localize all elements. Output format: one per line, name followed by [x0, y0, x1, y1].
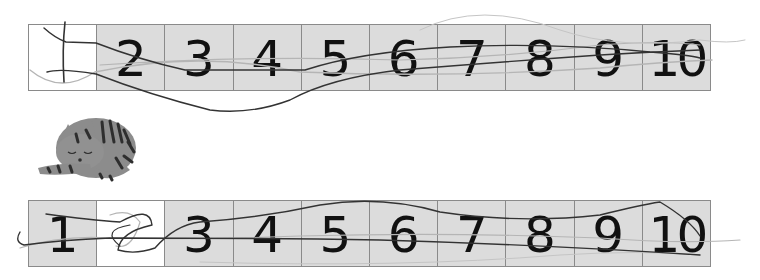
- number-cell: 9: [575, 25, 643, 90]
- number-cell: 7: [438, 25, 506, 90]
- number-cell: 5: [302, 201, 370, 266]
- number-cell-blank[interactable]: [97, 201, 165, 266]
- number-cell: 10: [643, 201, 710, 266]
- number-cell: 4: [234, 25, 302, 90]
- number-cell: 6: [370, 201, 438, 266]
- number-cell: 8: [506, 25, 574, 90]
- number-strip-top: 2 3 4 5 6 7 8 9 10: [28, 24, 711, 91]
- number-cell: 4: [234, 201, 302, 266]
- number-cell: 2: [97, 25, 165, 90]
- number-strip-bottom: 1 3 4 5 6 7 8 9 10: [28, 200, 711, 267]
- number-cell: 6: [370, 25, 438, 90]
- sleeping-cat-icon: [30, 112, 142, 187]
- number-cell: 3: [165, 201, 233, 266]
- number-cell: 3: [165, 25, 233, 90]
- number-cell: 9: [575, 201, 643, 266]
- number-cell: 7: [438, 201, 506, 266]
- number-cell: 1: [29, 201, 97, 266]
- number-cell-blank[interactable]: [29, 25, 97, 90]
- number-cell: 5: [302, 25, 370, 90]
- number-cell: 8: [506, 201, 574, 266]
- number-cell: 10: [643, 25, 710, 90]
